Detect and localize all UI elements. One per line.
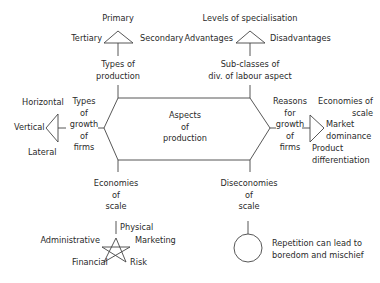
economies-of-scale-label: Economies of scale: [90, 178, 142, 213]
marketing-label: Marketing: [135, 235, 176, 247]
lateral-label: Lateral: [28, 147, 56, 159]
administrative-label: Administrative: [30, 235, 100, 247]
product-differentiation-label: Product differentiation: [312, 143, 370, 166]
types-of-growth-label: Types of growth of firms: [66, 96, 102, 154]
financial-label: Financial: [72, 257, 108, 269]
reasons-triangle: [310, 115, 324, 142]
secondary-label: Secondary: [140, 33, 183, 45]
types-of-production-label: Types of production: [88, 59, 148, 82]
center-label: Aspects of production: [160, 110, 210, 145]
diseconomies-of-scale-label: Diseconomies of scale: [218, 178, 280, 213]
sub-classes-label: Sub-classes of div. of labour aspect: [200, 59, 300, 82]
advantages-label: Advantages: [180, 33, 233, 45]
economies-of-scale-reason: Economies of scale: [310, 96, 373, 119]
primary-label: Primary: [98, 13, 138, 25]
production-triangle: [104, 31, 133, 43]
subclasses-triangle: [236, 31, 265, 43]
horizontal-label: Horizontal: [22, 97, 64, 109]
reasons-for-growth-label: Reasons for growth of firms: [272, 96, 308, 154]
repetition-note: Repetition can lead to boredom and misch…: [272, 238, 364, 261]
levels-of-specialisation-label: Levels of specialisation: [200, 13, 300, 25]
vertical-label: Vertical: [14, 122, 45, 134]
tertiary-label: Tertiary: [50, 33, 102, 45]
diseconomies-circle: [234, 234, 262, 262]
risk-label: Risk: [130, 257, 147, 269]
growth-types-triangle: [46, 114, 58, 142]
disadvantages-label: Disadvantages: [270, 33, 331, 45]
market-dominance-label: Market dominance: [326, 119, 371, 142]
physical-label: Physical: [120, 222, 153, 234]
